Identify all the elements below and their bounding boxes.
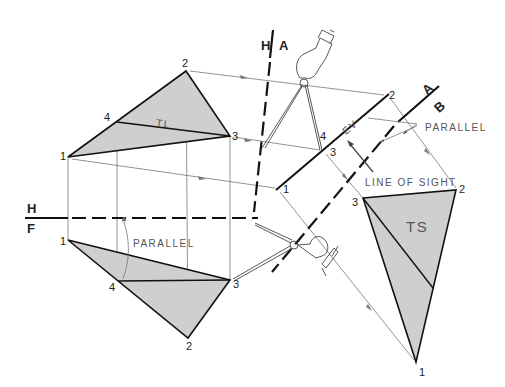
aux-a-point-1-label: 1 [283, 183, 289, 195]
divider-bottom-icon [233, 223, 338, 281]
edge-view-line [276, 94, 389, 190]
fold-ab-top-label: A [419, 80, 436, 98]
front-view-triangle [68, 240, 230, 338]
aux-a-point-3-label: 3 [330, 146, 336, 158]
front-view-horizontal-line [118, 280, 230, 281]
parallel-pointers [368, 118, 417, 142]
true-shape-label: TS [406, 218, 428, 235]
aux-a-point-4-label: 4 [320, 130, 326, 142]
top-point-4-label: 4 [104, 111, 110, 123]
fold-line-ha [254, 30, 273, 212]
top-point-1-label: 1 [60, 150, 66, 162]
aux-parallel-note: PARALLEL [425, 122, 487, 133]
fold-ha-right-label: A [279, 38, 289, 53]
front-point-1-label: 1 [60, 235, 66, 247]
drawing-canvas: 1 2 3 4 1 2 3 4 1 2 3 4 3 2 1 H F H A A … [0, 0, 505, 387]
front-point-2-label: 2 [186, 340, 192, 352]
line-of-sight-note: LINE OF SIGHT [365, 177, 457, 188]
front-parallel-note: PARALLEL [133, 238, 195, 249]
top-view-triangle [68, 71, 230, 157]
fold-hf-top-label: H [27, 201, 36, 216]
front-point-3-label: 3 [233, 278, 239, 290]
fold-hf-bottom-label: F [27, 221, 35, 236]
aux-b-point-3-label: 3 [352, 196, 358, 208]
fold-ab-bottom-label: B [431, 98, 448, 115]
top-point-3-label: 3 [232, 130, 238, 142]
aux-b-point-1-label: 1 [419, 366, 425, 378]
top-point-2-label: 2 [182, 57, 188, 69]
fold-ha-left-label: H [261, 38, 270, 53]
true-length-label: TL [155, 117, 171, 130]
aux-a-point-2-label: 2 [389, 89, 395, 101]
front-point-4-label: 4 [109, 281, 115, 293]
aux-b-point-2-label: 2 [459, 183, 465, 195]
